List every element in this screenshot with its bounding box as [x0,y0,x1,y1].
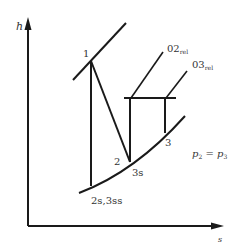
o2rel-main: 02 [167,43,180,54]
point-3-label: 3 [165,137,171,148]
x-axis-label: s [218,235,222,244]
upper-isobar [73,23,126,80]
o3rel-line [166,71,187,98]
pressure-note: p2 = p3 [192,148,227,160]
o3rel-sub: rel [205,64,213,71]
o3rel-label: 03rel [192,59,213,71]
o2rel-line [131,52,163,98]
p3-sub: 3 [223,153,227,160]
lower-isobar-curve [79,116,185,193]
y-axis-arrow-icon [25,17,32,30]
x-axis-arrow-icon [211,223,224,230]
o2rel-sub: rel [180,48,188,55]
o3rel-main: 03 [192,59,205,70]
expansion-line-1-2 [91,61,130,162]
y-axis-label: h [16,20,23,33]
point-3s-label: 3s [132,167,144,178]
point-2-label: 2 [114,156,120,167]
h-s-diagram: h s 1 2 3 3s 2s,3ss 02rel 03rel p2 = p3 [0,0,239,248]
o2rel-label: 02rel [167,43,188,55]
point-2s-3ss-label: 2s,3ss [91,195,122,206]
point-1-label: 1 [83,48,89,59]
equals-sign: = [202,148,217,159]
